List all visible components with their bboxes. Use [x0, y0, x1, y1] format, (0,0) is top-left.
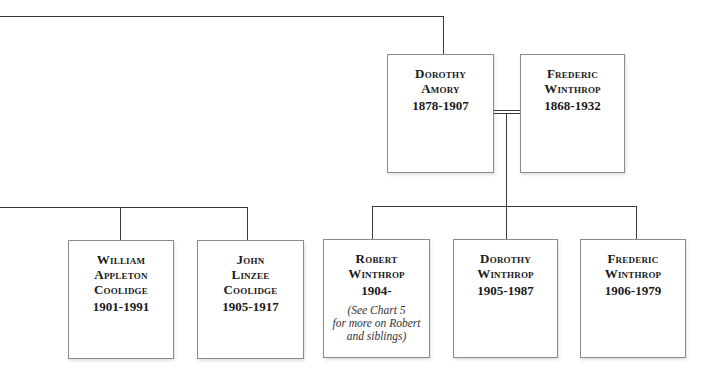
person-dates: 1906-1979: [581, 283, 685, 299]
person-dates: 1905-1917: [198, 299, 303, 315]
person-name-line: Winthrop: [521, 81, 624, 96]
coolidge-children-bar: [0, 207, 248, 208]
person-name-line: Appleton: [69, 267, 173, 282]
person-name-line: Amory: [388, 81, 493, 96]
person-name-line: William: [69, 252, 173, 267]
person-dates: 1868-1932: [521, 98, 624, 114]
person-box-dorothy-amory[interactable]: Dorothy Amory 1878-1907: [387, 54, 494, 173]
person-name-line: Robert: [324, 251, 429, 266]
person-box-frederic-winthrop-sr[interactable]: Frederic Winthrop 1868-1932: [520, 54, 625, 173]
person-name-line: Coolidge: [198, 282, 303, 297]
person-dates: 1901-1991: [69, 299, 173, 315]
person-name-line: Dorothy: [388, 66, 493, 81]
person-box-william-appleton-coolidge[interactable]: William Appleton Coolidge 1901-1991: [68, 240, 174, 359]
marriage-descent-line: [506, 113, 507, 239]
person-name-line: John: [198, 252, 303, 267]
person-name-line: Dorothy: [454, 251, 557, 266]
robert-winthrop-drop-line: [372, 206, 373, 239]
person-name-line: Winthrop: [581, 266, 685, 281]
person-name-line: Winthrop: [454, 266, 557, 281]
person-dates: 1905-1987: [454, 283, 557, 299]
person-box-frederic-winthrop-jr[interactable]: Frederic Winthrop 1906-1979: [580, 239, 686, 358]
dorothy-amory-ancestry-line: [443, 16, 444, 54]
cross-reference-note: (See Chart 5 for more on Robert and sibl…: [324, 304, 429, 343]
person-box-dorothy-winthrop[interactable]: Dorothy Winthrop 1905-1987: [453, 239, 558, 358]
frederic-winthrop-jr-drop-line: [636, 206, 637, 239]
person-dates: 1904-: [324, 283, 429, 299]
note-line: (See Chart 5: [324, 304, 429, 317]
person-name-line: Frederic: [581, 251, 685, 266]
person-dates: 1878-1907: [388, 98, 493, 114]
william-coolidge-drop-line: [120, 207, 121, 240]
winthrop-children-bar: [372, 206, 637, 207]
person-name-line: Winthrop: [324, 266, 429, 281]
marriage-line-upper: [493, 110, 520, 111]
john-coolidge-drop-line: [247, 207, 248, 240]
person-box-john-linzee-coolidge[interactable]: John Linzee Coolidge 1905-1917: [197, 240, 304, 359]
note-line: and siblings): [324, 330, 429, 343]
person-name-line: Linzee: [198, 267, 303, 282]
top-connector-line: [0, 16, 444, 17]
person-name-line: Coolidge: [69, 282, 173, 297]
person-box-robert-winthrop[interactable]: Robert Winthrop 1904- (See Chart 5 for m…: [323, 239, 430, 358]
note-line: for more on Robert: [324, 317, 429, 330]
person-name-line: Frederic: [521, 66, 624, 81]
